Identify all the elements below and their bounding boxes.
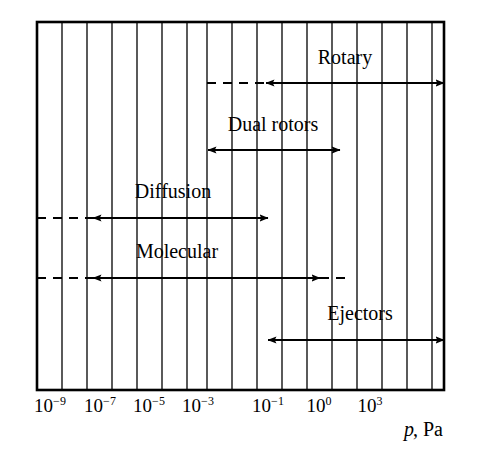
tick-mantissa: 10	[84, 395, 103, 416]
x-tick-label: 10−9	[34, 394, 66, 416]
x-axis-tick-labels: 10−910−710−510−310−1100103	[34, 394, 382, 416]
tick-mantissa: 10	[133, 395, 152, 416]
plot-frame	[37, 22, 444, 390]
band-label: Molecular	[136, 240, 219, 262]
tick-mantissa: 10	[34, 395, 53, 416]
tick-mantissa: 10	[358, 395, 377, 416]
range-band: Rotary	[207, 46, 444, 83]
range-band: Dual rotors	[208, 113, 340, 150]
pressure-range-figure: RotaryDual rotorsDiffusionMolecularEject…	[0, 0, 498, 458]
figure-svg: RotaryDual rotorsDiffusionMolecularEject…	[0, 0, 498, 458]
band-label: Dual rotors	[228, 113, 319, 135]
tick-mantissa: 10	[307, 395, 326, 416]
tick-exponent: −3	[201, 394, 214, 408]
tick-exponent: 0	[326, 394, 332, 408]
x-tick-label: 103	[358, 394, 383, 416]
tick-exponent: 3	[377, 394, 383, 408]
band-label: Rotary	[318, 46, 372, 69]
x-tick-label: 10−7	[84, 394, 116, 416]
tick-exponent: −5	[152, 394, 165, 408]
x-tick-label: 10−3	[182, 394, 214, 416]
range-band: Molecular	[37, 240, 347, 278]
x-tick-label: 100	[307, 394, 332, 416]
tick-mantissa: 10	[182, 395, 201, 416]
tick-exponent: −7	[103, 394, 116, 408]
tick-mantissa: 10	[252, 395, 271, 416]
tick-exponent: −9	[53, 394, 66, 408]
axis-label-units: , Pa	[413, 418, 443, 440]
band-label: Ejectors	[327, 302, 393, 325]
gridlines	[62, 22, 432, 390]
pump-range-bands: RotaryDual rotorsDiffusionMolecularEject…	[37, 46, 444, 340]
range-band: Diffusion	[37, 180, 268, 218]
band-label: Diffusion	[135, 180, 211, 202]
x-tick-label: 10−5	[133, 394, 165, 416]
range-band: Ejectors	[268, 302, 444, 340]
x-tick-label: 10−1	[252, 394, 284, 416]
tick-exponent: −1	[271, 394, 284, 408]
